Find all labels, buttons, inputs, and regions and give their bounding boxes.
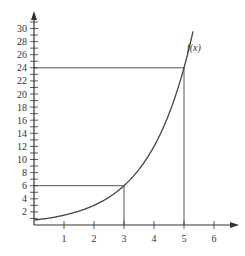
x-axis-arrow-icon	[230, 222, 239, 228]
x-tick-label: 5	[182, 233, 187, 244]
guide-lines	[34, 68, 184, 225]
y-tick-label: 28	[17, 36, 27, 47]
x-tick-label: 2	[92, 233, 97, 244]
axes	[30, 11, 239, 229]
function-label: f(x)	[187, 42, 202, 54]
y-tick-label: 22	[17, 75, 27, 86]
function-curve	[34, 31, 193, 220]
y-tick-label: 16	[17, 115, 27, 126]
y-tick-label: 4	[22, 193, 27, 204]
y-tick-label: 24	[17, 62, 27, 73]
x-tick-label: 3	[122, 233, 127, 244]
x-tick-label: 4	[152, 233, 157, 244]
y-tick-label: 30	[17, 23, 27, 34]
y-tick-label: 12	[17, 141, 27, 152]
y-tick-label: 26	[17, 49, 27, 60]
y-tick-label: 20	[17, 89, 27, 100]
y-tick-label: 14	[17, 128, 27, 139]
x-tick-label: 1	[62, 233, 67, 244]
y-tick-label: 6	[22, 180, 27, 191]
y-tick-label: 10	[17, 154, 27, 165]
y-axis-arrow-icon	[31, 11, 37, 20]
exponential-chart: 24681012141618202224262830123456f(x)	[0, 0, 245, 256]
f-x-curve	[34, 31, 193, 220]
y-tick-label: 18	[17, 102, 27, 113]
y-tick-label: 8	[22, 167, 27, 178]
x-tick-label: 6	[212, 233, 217, 244]
y-tick-label: 2	[22, 206, 27, 217]
